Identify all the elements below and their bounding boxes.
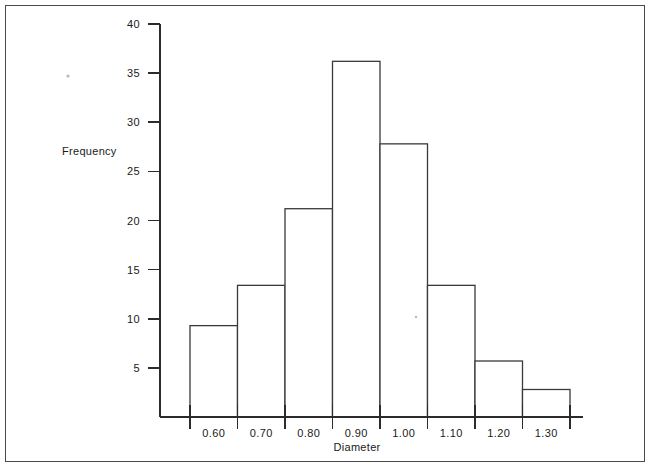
y-tick-label: 35 bbox=[127, 67, 140, 79]
histogram-bar bbox=[285, 209, 333, 417]
y-tick-label: 10 bbox=[127, 313, 140, 325]
y-tick-label: 15 bbox=[127, 264, 140, 276]
y-tick-label: 5 bbox=[133, 362, 140, 374]
y-axis: 510152025303540 Frequency bbox=[62, 18, 160, 417]
x-axis-title: Diameter bbox=[333, 441, 380, 453]
histogram-bar bbox=[333, 61, 381, 417]
histogram-bar bbox=[475, 361, 523, 417]
x-tick-label: 0.70 bbox=[250, 427, 273, 439]
x-tick-label: 1.30 bbox=[535, 427, 558, 439]
histogram-bar bbox=[190, 326, 238, 417]
bars-group bbox=[190, 61, 570, 417]
x-tick-label: 0.90 bbox=[345, 427, 368, 439]
histogram-bar bbox=[238, 285, 286, 417]
histogram-bar bbox=[380, 144, 428, 417]
plot-area bbox=[190, 61, 570, 417]
x-tick-label: 0.80 bbox=[297, 427, 320, 439]
x-tick-label: 1.10 bbox=[440, 427, 463, 439]
histogram-bar bbox=[523, 389, 571, 417]
histogram-chart: 510152025303540 Frequency 0.600.700.800.… bbox=[0, 0, 653, 475]
page-speck-2 bbox=[415, 316, 417, 318]
x-tick-label: 1.20 bbox=[487, 427, 510, 439]
y-tick-label: 30 bbox=[127, 116, 140, 128]
page-speck bbox=[66, 74, 69, 77]
y-tick-group: 510152025303540 bbox=[127, 18, 160, 374]
x-tick-label: 0.60 bbox=[202, 427, 225, 439]
y-tick-label: 25 bbox=[127, 165, 140, 177]
histogram-bar bbox=[428, 285, 476, 417]
x-tick-label: 1.00 bbox=[392, 427, 415, 439]
y-tick-label: 20 bbox=[127, 215, 140, 227]
y-tick-label: 40 bbox=[127, 18, 140, 30]
y-axis-title: Frequency bbox=[62, 145, 117, 157]
